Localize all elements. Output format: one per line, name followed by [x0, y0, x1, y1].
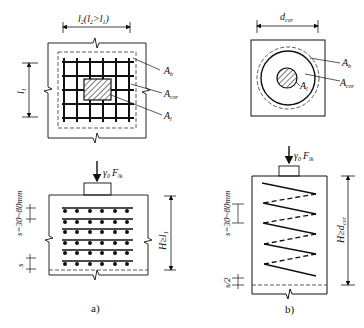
al-label-b: Al [299, 80, 308, 92]
mesh-rows-a [62, 208, 133, 266]
load-label-a: γ0Flk [103, 167, 123, 179]
spacing-dims-b [232, 204, 244, 289]
al-hatched-circle [277, 68, 297, 88]
spacing-label-a: s=30~80mm [14, 190, 24, 236]
acor-label: Acor [163, 88, 179, 100]
spiral-reinforcement [262, 183, 316, 276]
loading-plate-b [279, 166, 299, 176]
height-label-a: H≥l₁ [157, 231, 168, 251]
loading-plate-a [84, 183, 111, 195]
ab-label: Ab [163, 65, 173, 77]
spacing-dims-a [26, 204, 36, 273]
caption-b: b) [285, 303, 295, 316]
plan-a-leaders [111, 58, 162, 115]
spacing-label-b: s=30~80mm [222, 190, 232, 236]
panel-a-plan: l2(l2>l1) l1 [15, 13, 179, 143]
al-label: Al [163, 110, 172, 122]
load-label-b: γ0Flk [294, 150, 314, 162]
ab-label-b: Ab [341, 57, 351, 69]
spacing-half-label-b: s/2 [222, 277, 232, 288]
l1-label: l1 [15, 88, 27, 94]
dcor-label: dcor [280, 11, 294, 23]
al-hatched-area [84, 79, 111, 100]
panel-b-plan: dcor Ab Acor Al [251, 11, 355, 116]
acor-label-b: Acor [339, 77, 355, 89]
spacing-s-label-a: s [15, 263, 25, 267]
l2-label: l2(l2>l1) [78, 13, 109, 25]
panel-a-elevation: γ0Flk [14, 161, 176, 315]
height-label-b: H≥dcor [335, 217, 347, 244]
caption-a: a) [91, 302, 100, 315]
panel-b-elevation: γ0Flk s=30~80mm s/2 [222, 146, 355, 316]
local-compression-reinforcement-diagram: l2(l2>l1) l1 [0, 0, 364, 328]
